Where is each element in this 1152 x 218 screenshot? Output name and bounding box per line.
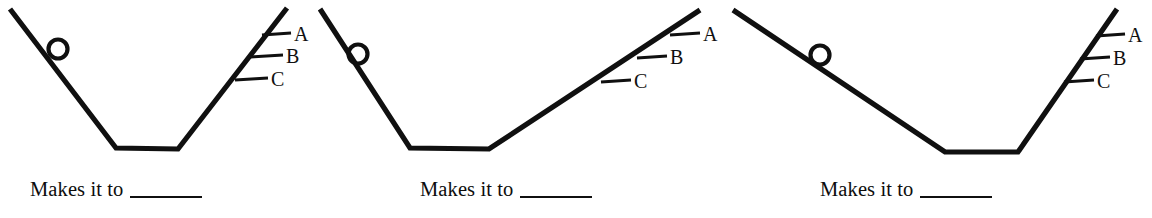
- level-label-b-3: B: [1113, 47, 1126, 69]
- level-tick-c-2: [601, 80, 631, 82]
- level-label-a-3: A: [1128, 24, 1143, 46]
- panel-1: A B C: [10, 8, 309, 149]
- level-tick-a-2: [670, 33, 700, 35]
- level-label-b-2: B: [670, 46, 683, 68]
- panel-2: A B C: [320, 9, 718, 149]
- caption-panel-3: Makes it to: [820, 178, 992, 201]
- level-label-c-3: C: [1097, 70, 1110, 92]
- caption-text-2: Makes it to: [420, 178, 513, 201]
- level-label-a-2: A: [703, 23, 718, 45]
- answer-blank-1[interactable]: [130, 196, 202, 198]
- panel-3: A B C: [733, 9, 1143, 152]
- level-tick-b-2: [637, 56, 667, 58]
- answer-blank-2[interactable]: [520, 196, 592, 198]
- ball-3: [811, 46, 830, 65]
- ramp-track-3: [733, 9, 1117, 152]
- ball-1: [49, 40, 68, 59]
- figure-root: A B C A B C A B C: [0, 0, 1152, 218]
- level-tick-c-3: [1064, 80, 1094, 82]
- level-label-c-2: C: [634, 70, 647, 92]
- caption-text-1: Makes it to: [30, 178, 123, 201]
- level-tick-b-1: [250, 55, 283, 57]
- answer-blank-3[interactable]: [920, 196, 992, 198]
- level-label-c-1: C: [271, 68, 284, 90]
- level-label-a-1: A: [294, 23, 309, 45]
- level-tick-a-1: [262, 33, 291, 35]
- level-tick-a-3: [1096, 34, 1125, 36]
- caption-panel-1: Makes it to: [30, 178, 202, 201]
- level-tick-b-3: [1080, 57, 1110, 59]
- level-tick-c-1: [235, 78, 268, 80]
- level-label-b-1: B: [286, 45, 299, 67]
- caption-text-3: Makes it to: [820, 178, 913, 201]
- caption-row: Makes it to Makes it to Makes it to: [0, 178, 1152, 218]
- caption-panel-2: Makes it to: [420, 178, 592, 201]
